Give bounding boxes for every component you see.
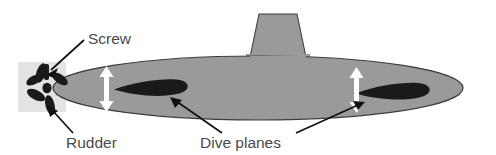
label-dive-planes: Dive planes (200, 134, 281, 151)
label-rudder: Rudder (66, 134, 117, 151)
label-screw: Screw (88, 30, 132, 47)
diagram-canvas: Screw Rudder Dive planes (0, 0, 496, 155)
hull-tower-joint (250, 56, 306, 65)
submarine-diagram-figure: Screw Rudder Dive planes (0, 0, 496, 155)
